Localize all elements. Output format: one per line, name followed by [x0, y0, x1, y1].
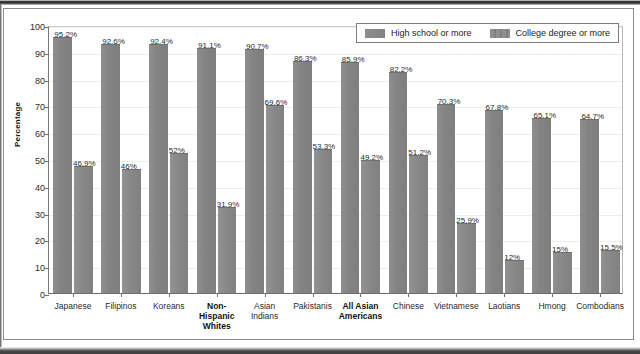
- bar-high-school: [532, 118, 551, 293]
- bar-value-label: 25.9%: [456, 216, 479, 226]
- bar-group: 91.1%31.9%: [197, 27, 236, 293]
- legend-swatch-high-school-icon: [365, 29, 385, 38]
- bar-value-label: 65.1%: [533, 111, 556, 121]
- x-axis-tick-mark: [265, 293, 266, 297]
- bar-college-degree: [266, 105, 285, 293]
- bar-group: 65.1%15%: [532, 27, 571, 293]
- x-axis-tick-mark: [504, 293, 505, 297]
- bar-group: 92.4%52%: [149, 27, 188, 293]
- bar-value-label: 82.2%: [390, 65, 413, 75]
- bar-college-degree: [553, 252, 572, 293]
- bar-college-degree: [170, 153, 189, 293]
- legend-item-high-school: High school or more: [365, 28, 472, 38]
- bar-group: 86.3%53.3%: [293, 27, 332, 293]
- legend-label-high-school: High school or more: [391, 28, 472, 38]
- bar-college-degree: [314, 149, 333, 293]
- bar-group: 85.9%49.2%: [341, 27, 380, 293]
- x-axis-tick-mark: [456, 293, 457, 297]
- bar-college-degree: [601, 250, 620, 293]
- bar-value-label: 52%: [169, 146, 185, 156]
- bar-high-school: [437, 104, 456, 293]
- plot-area: 0102030405060708090100 Percentage 95.2%4…: [48, 26, 623, 294]
- bar-value-label: 15%: [552, 245, 568, 255]
- legend-label-college-degree: College degree or more: [516, 28, 611, 38]
- bar-value-label: 69.6%: [265, 98, 288, 108]
- bar-group: 90.7%69.6%: [245, 27, 284, 293]
- bar-value-label: 85.9%: [342, 55, 365, 65]
- y-axis-tick-label: 40: [35, 183, 45, 193]
- bar-group: 82.2%51.2%: [389, 27, 428, 293]
- bar-value-label: 92.6%: [102, 37, 125, 47]
- bar-high-school: [149, 44, 168, 293]
- x-axis-tick-mark: [217, 293, 218, 297]
- x-axis-category-label: Combodians: [562, 301, 638, 311]
- bar-high-school: [485, 110, 504, 293]
- bar-high-school: [341, 62, 360, 293]
- bar-group: 95.2%46.9%: [53, 27, 92, 293]
- y-axis-tick-label: 90: [35, 49, 45, 59]
- bar-value-label: 53.3%: [313, 142, 336, 152]
- x-axis-tick-mark: [121, 293, 122, 297]
- bar-college-degree: [361, 160, 380, 293]
- bar-value-label: 51.2%: [408, 148, 431, 158]
- y-axis-tick-label: 50: [35, 156, 45, 166]
- x-axis-tick-mark: [408, 293, 409, 297]
- legend-swatch-college-degree-icon: [490, 29, 510, 38]
- y-axis-tick-label: 80: [35, 76, 45, 86]
- bar-college-degree: [122, 169, 141, 293]
- bar-value-label: 49.2%: [360, 153, 383, 163]
- bar-college-degree: [409, 155, 428, 293]
- x-axis-tick-mark: [552, 293, 553, 297]
- legend-item-college-degree: College degree or more: [490, 28, 611, 38]
- x-axis-tick-mark: [600, 293, 601, 297]
- y-axis-title: Percentage: [13, 102, 22, 147]
- bar-value-label: 91.1%: [198, 41, 221, 51]
- bar-value-label: 70.3%: [438, 97, 461, 107]
- bar-college-degree: [74, 166, 93, 293]
- bar-value-label: 46%: [121, 162, 137, 172]
- y-axis-tick-label: 60: [35, 129, 45, 139]
- bar-value-label: 95.2%: [54, 30, 77, 40]
- bar-high-school: [389, 72, 408, 293]
- bar-high-school: [101, 44, 120, 293]
- bar-college-degree: [457, 223, 476, 293]
- x-axis-label-line: Americans: [322, 311, 398, 321]
- bar-group: 70.3%25.9%: [437, 27, 476, 293]
- bar-value-label: 31.9%: [217, 200, 240, 210]
- scan-bottom-edge: [0, 347, 640, 354]
- y-axis-tick-mark: [45, 295, 49, 296]
- bar-group: 64.7%15.5%: [580, 27, 619, 293]
- bar-college-degree: [505, 260, 524, 293]
- x-axis-tick-mark: [360, 293, 361, 297]
- bar-high-school: [580, 119, 599, 293]
- y-axis-tick-label: 20: [35, 236, 45, 246]
- bar-high-school: [197, 48, 216, 293]
- bar-value-label: 92.4%: [150, 37, 173, 47]
- x-axis-label-line: Whites: [179, 321, 255, 331]
- bar-college-degree: [218, 207, 237, 293]
- chart-legend: High school or more College degree or mo…: [356, 23, 619, 43]
- scan-top-edge: [0, 0, 640, 5]
- bar-value-label: 86.3%: [294, 54, 317, 64]
- x-axis-tick-mark: [313, 293, 314, 297]
- bar-value-label: 12%: [504, 253, 520, 263]
- bar-value-label: 90.7%: [246, 42, 269, 52]
- bar-value-label: 46.9%: [73, 159, 96, 169]
- bar-group: 67.8%12%: [485, 27, 524, 293]
- x-axis-tick-mark: [73, 293, 74, 297]
- bar-high-school: [245, 49, 264, 293]
- y-axis-tick-label: 70: [35, 102, 45, 112]
- bar-group: 92.6%46%: [101, 27, 140, 293]
- bar-high-school: [293, 61, 312, 293]
- y-axis-tick-label: 30: [35, 210, 45, 220]
- y-axis-tick-label: 100: [30, 22, 45, 32]
- bar-value-label: 64.7%: [581, 112, 604, 122]
- x-axis-label-line: Indians: [227, 311, 303, 321]
- bar-value-label: 15.5%: [600, 243, 623, 253]
- bar-high-school: [53, 37, 72, 293]
- bar-series-layer: 95.2%46.9%92.6%46%92.4%52%91.1%31.9%90.7…: [49, 27, 622, 293]
- x-axis-label-line: Combodians: [562, 301, 638, 311]
- chart-figure: 0102030405060708090100 Percentage 95.2%4…: [3, 8, 634, 340]
- x-axis-tick-mark: [169, 293, 170, 297]
- bar-value-label: 67.8%: [486, 103, 509, 113]
